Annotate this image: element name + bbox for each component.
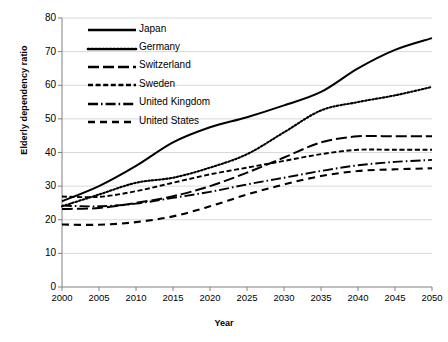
legend-item-switzerland[interactable]: Switzerland bbox=[86, 56, 226, 74]
series-line-united-kingdom bbox=[62, 160, 432, 206]
legend-label: United Kingdom bbox=[138, 96, 210, 107]
medium-dash-line-key bbox=[86, 114, 138, 126]
y-tick-30: 30 bbox=[26, 181, 56, 191]
y-tick-70: 70 bbox=[26, 47, 56, 57]
legend-item-united-kingdom[interactable]: United Kingdom bbox=[86, 93, 226, 111]
long-dash-dot-line-key bbox=[86, 59, 138, 71]
series-line-switzerland bbox=[62, 136, 432, 209]
y-tick-0: 0 bbox=[26, 282, 56, 292]
y-axis-title: Elderly dependency ratio bbox=[19, 40, 29, 160]
legend-item-united-states[interactable]: United States bbox=[86, 111, 226, 129]
legend-item-japan[interactable]: Japan bbox=[86, 19, 226, 37]
legend-label: Japan bbox=[138, 23, 166, 34]
line-chart: Elderly dependency ratio Year 0102030405… bbox=[0, 0, 448, 342]
y-tick-60: 60 bbox=[26, 80, 56, 90]
legend-item-sweden[interactable]: Sweden bbox=[86, 74, 226, 92]
dotted-line-key bbox=[86, 41, 138, 53]
legend-label: Switzerland bbox=[138, 59, 191, 70]
legend-label: Germany bbox=[138, 41, 180, 52]
legend: JapanGermanySwitzerlandSwedenUnited King… bbox=[86, 19, 226, 129]
y-tick-50: 50 bbox=[26, 114, 56, 124]
legend-label: Sweden bbox=[138, 78, 175, 89]
solid-line-key bbox=[86, 22, 138, 34]
legend-item-germany[interactable]: Germany bbox=[86, 37, 226, 55]
y-tick-10: 10 bbox=[26, 248, 56, 258]
legend-label: United States bbox=[138, 115, 199, 126]
y-tick-40: 40 bbox=[26, 148, 56, 158]
long-dash-dot-line-key bbox=[86, 96, 138, 108]
y-tick-80: 80 bbox=[26, 13, 56, 23]
dashed-line-key bbox=[86, 77, 138, 89]
y-tick-20: 20 bbox=[26, 215, 56, 225]
x-axis-title: Year bbox=[0, 318, 448, 328]
